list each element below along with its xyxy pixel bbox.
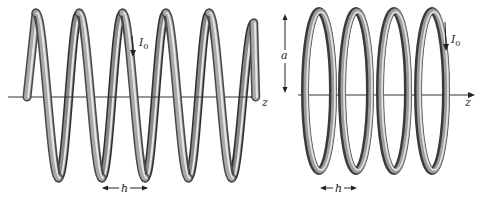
radius-arrowhead-bottom (283, 87, 288, 93)
helical-coil-panel: z I0 h (8, 13, 268, 195)
figure-canvas: z I0 h a z I0 h (0, 0, 483, 204)
pitch-arrowhead-right-a (320, 186, 326, 191)
ring-stack-panel: a z I0 h (281, 11, 475, 195)
pitch-label-right: h (335, 182, 342, 195)
z-axis-left-label: z (261, 96, 268, 109)
z-axis-right-label: z (464, 96, 471, 109)
radius-arrowhead-top (283, 14, 288, 20)
pitch-arrowhead-left-b (142, 186, 148, 191)
pitch-label-left: h (121, 182, 128, 195)
radius-label: a (281, 49, 288, 62)
current-label-left: I0 (138, 36, 148, 51)
pitch-arrowhead-right-b (351, 186, 357, 191)
current-label-right: I0 (450, 33, 460, 48)
pitch-arrowhead-left-a (102, 186, 108, 191)
